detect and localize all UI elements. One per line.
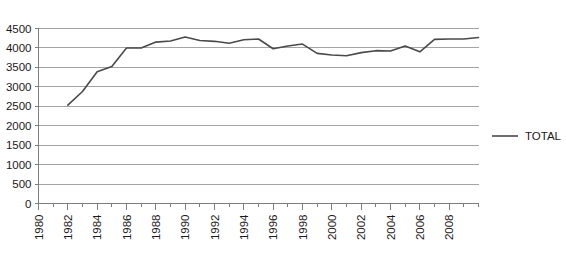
x-tick-label: 1996 bbox=[267, 215, 279, 241]
y-tick-label: 2500 bbox=[6, 100, 32, 112]
y-tick-label: 1000 bbox=[6, 159, 32, 171]
y-axis bbox=[35, 29, 39, 204]
x-tick-labels: 1980198219841986198819901992199419961998… bbox=[33, 214, 456, 240]
x-tick-label: 1992 bbox=[209, 215, 221, 241]
x-tick-label: 2008 bbox=[443, 215, 455, 241]
y-tick-label: 3500 bbox=[6, 61, 32, 73]
chart-legend: TOTAL bbox=[492, 130, 562, 142]
x-axis bbox=[39, 204, 479, 210]
y-tick-labels: 050010001500200025003000350040004500 bbox=[6, 23, 32, 210]
series-line-total bbox=[68, 37, 479, 105]
x-tick-label: 2004 bbox=[385, 214, 397, 240]
x-tick-label: 1988 bbox=[150, 215, 162, 241]
line-chart: 050010001500200025003000350040004500 198… bbox=[0, 0, 566, 253]
x-tick-label: 2002 bbox=[355, 215, 367, 241]
y-tick-label: 4500 bbox=[6, 23, 32, 35]
y-tick-label: 1500 bbox=[6, 139, 32, 151]
x-tick-label: 1998 bbox=[297, 215, 309, 241]
x-tick-label: 1994 bbox=[238, 214, 250, 240]
y-tick-label: 4000 bbox=[6, 42, 32, 54]
legend-label: TOTAL bbox=[525, 130, 562, 142]
x-tick-label: 2000 bbox=[326, 215, 338, 241]
x-tick-label: 1980 bbox=[33, 215, 45, 241]
x-tick-label: 1982 bbox=[62, 215, 74, 241]
x-tick-label: 1986 bbox=[121, 215, 133, 241]
x-tick-label: 1984 bbox=[91, 214, 103, 240]
y-tick-label: 3000 bbox=[6, 81, 32, 93]
chart-canvas: 050010001500200025003000350040004500 198… bbox=[0, 0, 566, 253]
x-tick-label: 2006 bbox=[414, 215, 426, 241]
gridlines bbox=[39, 29, 479, 204]
y-tick-label: 2000 bbox=[6, 120, 32, 132]
y-tick-label: 0 bbox=[25, 198, 31, 210]
series-total bbox=[68, 37, 479, 105]
y-tick-label: 500 bbox=[12, 178, 31, 190]
x-tick-label: 1990 bbox=[179, 215, 191, 241]
